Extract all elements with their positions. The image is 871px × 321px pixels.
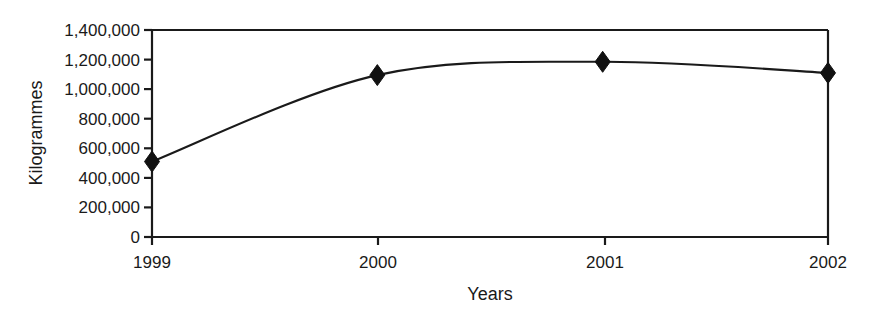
series-markers — [145, 51, 836, 172]
y-tick-label-1200000: 1,200,000 — [64, 51, 140, 70]
line-chart: 1,400,000 1,200,000 1,000,000 800,000 60… — [0, 0, 871, 321]
plot-frame — [152, 30, 828, 237]
y-tick-label-600000: 600,000 — [79, 139, 140, 158]
x-axis-title: Years — [467, 284, 512, 304]
data-point-marker-2000 — [370, 65, 385, 86]
chart-canvas: 1,400,000 1,200,000 1,000,000 800,000 60… — [0, 0, 871, 321]
series-line-path — [152, 62, 828, 162]
y-tick-label-1000000: 1,000,000 — [64, 80, 140, 99]
data-point-marker-1999 — [145, 151, 160, 172]
y-tick-label-1400000: 1,400,000 — [64, 21, 140, 40]
y-axis-title: Kilogrammes — [26, 80, 46, 185]
y-tick-label-800000: 800,000 — [79, 110, 140, 129]
x-tick-label-2000: 2000 — [359, 253, 397, 272]
x-axis-tick-labels: 1999 2000 2001 2002 — [133, 253, 847, 272]
x-tick-label-1999: 1999 — [133, 253, 171, 272]
y-axis-ticks — [144, 30, 152, 237]
y-axis-tick-labels: 1,400,000 1,200,000 1,000,000 800,000 60… — [64, 21, 140, 247]
x-tick-label-2002: 2002 — [809, 253, 847, 272]
x-tick-label-2001: 2001 — [586, 253, 624, 272]
data-point-marker-2001 — [595, 51, 610, 72]
y-tick-label-0: 0 — [131, 228, 140, 247]
y-tick-label-400000: 400,000 — [79, 169, 140, 188]
data-point-marker-2002 — [821, 62, 836, 83]
data-series-kilogrammes — [145, 51, 836, 172]
x-axis-ticks — [152, 237, 828, 245]
y-tick-label-200000: 200,000 — [79, 198, 140, 217]
